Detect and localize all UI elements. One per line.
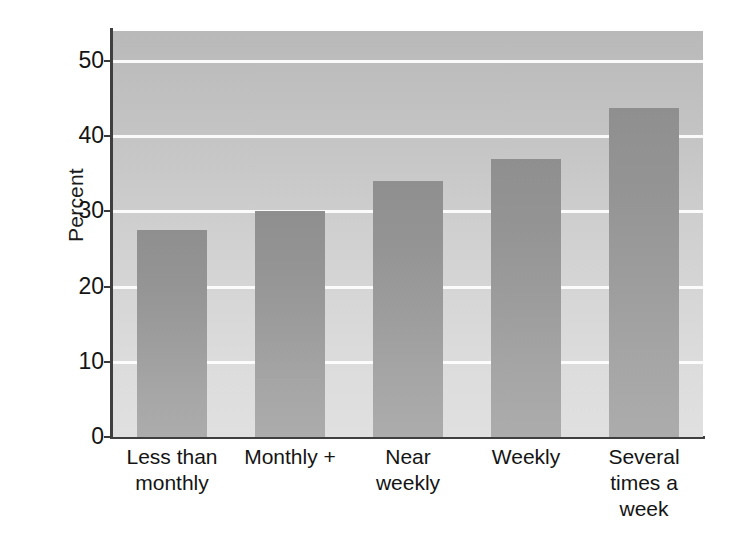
x-axis-label-line: monthly <box>113 470 231 496</box>
x-axis-label-line: Less than <box>113 444 231 470</box>
bar <box>491 159 561 437</box>
x-axis-label-line: weekly <box>349 470 467 496</box>
y-tick-label: 10 <box>62 350 104 373</box>
y-tick-label: 0 <box>62 425 104 448</box>
x-axis-label-line: week <box>585 496 703 522</box>
x-axis-category-labels: Less thanmonthlyMonthly +NearweeklyWeekl… <box>113 444 703 544</box>
x-axis-label: Less thanmonthly <box>113 444 231 496</box>
x-axis-label: Weekly <box>467 444 585 470</box>
y-axis-tick-labels: 50403020100 <box>58 0 104 554</box>
bar-chart: Percent 50403020100 Less thanmonthlyMont… <box>0 0 734 554</box>
x-axis-label: Nearweekly <box>349 444 467 496</box>
bar <box>373 181 443 437</box>
x-axis-label-line: Near <box>349 444 467 470</box>
y-tick-label: 20 <box>62 275 104 298</box>
plot-area <box>113 31 703 437</box>
x-axis-label-line: Weekly <box>467 444 585 470</box>
x-axis-label-line: Several <box>585 444 703 470</box>
x-axis-label: Severaltimes aweek <box>585 444 703 522</box>
y-tick-label: 50 <box>62 49 104 72</box>
x-axis-label: Monthly + <box>231 444 349 470</box>
x-axis-label-line: times a <box>585 470 703 496</box>
y-tick-label: 40 <box>62 124 104 147</box>
x-axis-label-line: Monthly + <box>231 444 349 470</box>
gridline <box>113 60 703 63</box>
bar <box>137 230 207 437</box>
bar <box>255 211 325 437</box>
y-tick-label: 30 <box>62 199 104 222</box>
bar <box>609 108 679 437</box>
